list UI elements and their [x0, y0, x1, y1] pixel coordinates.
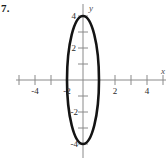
x-axis-name-label: x — [160, 66, 165, 76]
y-tick-label-neg2: -2 — [71, 107, 79, 117]
x-tick-label-2: 2 — [113, 86, 118, 96]
figure-container: 7. — [0, 0, 168, 160]
y-tick-label-4: 4 — [72, 11, 77, 21]
y-axis-name-label: y — [88, 3, 93, 13]
y-tick-label-2: 2 — [72, 43, 77, 53]
coordinate-plot: -4 -2 2 4 4 2 -2 -4 x y — [0, 0, 168, 160]
y-tick-label-neg4: -4 — [71, 139, 79, 149]
x-tick-label-neg2: -2 — [63, 86, 71, 96]
x-tick-label-neg4: -4 — [31, 86, 39, 96]
x-tick-label-4: 4 — [145, 86, 150, 96]
